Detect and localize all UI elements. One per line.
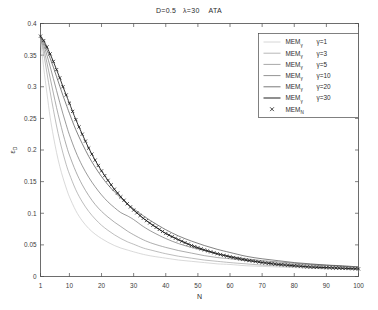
y-tick-label: 0.1 bbox=[28, 210, 37, 217]
svg-text:εD: εD bbox=[9, 146, 18, 153]
x-tick-label: 20 bbox=[98, 282, 106, 289]
x-tick-label: 60 bbox=[226, 282, 234, 289]
y-tick-label: 0.2 bbox=[28, 146, 37, 153]
legend-value: γ=30 bbox=[317, 94, 331, 102]
y-tick-label: 0.15 bbox=[24, 178, 37, 185]
figure-canvas: D=0.5 λ=30 ATA 110203040506070809010000.… bbox=[0, 0, 378, 310]
x-tick-label: 10 bbox=[66, 282, 74, 289]
legend-value: γ=20 bbox=[317, 83, 331, 91]
y-axis-title: εD bbox=[9, 146, 18, 153]
x-tick-label: 30 bbox=[130, 282, 138, 289]
plot-area: 110203040506070809010000.050.10.150.20.2… bbox=[0, 0, 378, 310]
x-tick-label: 90 bbox=[323, 282, 331, 289]
y-tick-label: 0.3 bbox=[28, 83, 37, 90]
x-tick-label: 40 bbox=[162, 282, 170, 289]
x-tick-label: 1 bbox=[39, 282, 43, 289]
x-tick-label: 50 bbox=[194, 282, 202, 289]
legend[interactable]: MEMγγ=1MEMγγ=3MEMγγ=5MEMγγ=10MEMγγ=20MEM… bbox=[259, 34, 359, 118]
x-tick-label: 80 bbox=[291, 282, 299, 289]
y-tick-label: 0.4 bbox=[28, 20, 37, 27]
x-tick-label: 100 bbox=[353, 282, 364, 289]
legend-value: γ=5 bbox=[317, 61, 328, 69]
y-tick-label: 0.25 bbox=[24, 115, 37, 122]
legend-value: γ=10 bbox=[317, 72, 331, 80]
y-tick-label: 0.05 bbox=[24, 241, 37, 248]
x-axis-title: N bbox=[197, 293, 202, 300]
legend-value: γ=3 bbox=[317, 50, 328, 58]
legend-value: γ=1 bbox=[317, 38, 328, 46]
x-tick-label: 70 bbox=[259, 282, 267, 289]
y-tick-label: 0 bbox=[33, 273, 37, 280]
y-tick-label: 0.35 bbox=[24, 52, 37, 59]
